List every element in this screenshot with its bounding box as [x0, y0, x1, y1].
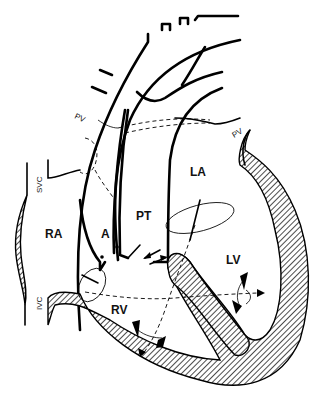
valve-rings: [73, 196, 238, 306]
heart-diagram: LA RA A PT LV RV SVC IVC PV PV: [0, 0, 316, 405]
pulmonary-vein-band: [80, 118, 240, 200]
label-svc: SVC: [35, 176, 44, 193]
label-lv: LV: [226, 253, 240, 267]
label-rv: RV: [111, 303, 127, 317]
label-la: LA: [190, 165, 206, 179]
label-aorta: A: [101, 227, 110, 241]
label-ra: RA: [45, 227, 63, 241]
label-pt: PT: [136, 209, 152, 223]
label-pv-left: PV: [73, 112, 87, 125]
label-ivc: IVC: [35, 296, 44, 310]
label-pv-right: PV: [231, 126, 245, 139]
aortic-arch: [78, 16, 240, 330]
right-atrium-wall: [15, 195, 27, 325]
